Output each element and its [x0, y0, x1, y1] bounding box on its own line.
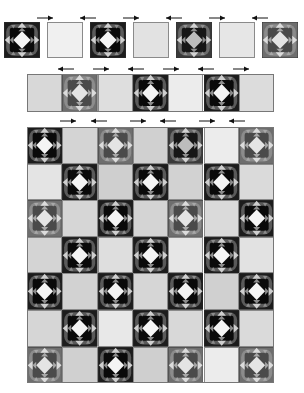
quilt-r4-c3-plain-square — [133, 273, 168, 310]
quilt-r2-c3-plain-square — [133, 200, 168, 237]
top-row-arrow-right-icon — [37, 15, 53, 21]
quilt-r3-c2-plain-square — [98, 237, 133, 274]
quilt-r1-c0-plain-square — [27, 164, 62, 201]
quilt-arrow-left-icon — [91, 118, 107, 124]
quilt-r3-c4-plain-square — [168, 237, 203, 274]
quilt-r4-c1-plain-square — [62, 273, 97, 310]
quilt-r5-c4-plain-square — [168, 310, 203, 347]
strip-4-plain-square — [168, 74, 203, 112]
quilt-r1-c6-plain-square — [239, 164, 274, 201]
quilt-arrow-right-icon — [60, 118, 76, 124]
quilt-r5-c6-plain-square — [239, 310, 274, 347]
quilt-r6-c1-plain-square — [62, 347, 97, 384]
strip-6-plain-square — [239, 74, 274, 112]
quilt-arrow-left-icon — [160, 118, 176, 124]
strip-arrow-left-icon — [58, 66, 74, 72]
quilt-arrow-right-icon — [130, 118, 146, 124]
quilt-r1-c5-pieced-block — [204, 164, 239, 201]
quilt-arrow-right-icon — [199, 118, 215, 124]
quilt-r0-c5-plain-square — [204, 127, 239, 164]
top-row-arrow-right-icon — [123, 15, 139, 21]
quilt-r3-c5-pieced-block — [204, 237, 239, 274]
top-row-arrow-left-icon — [166, 15, 182, 21]
top-row-6-pieced-block — [262, 22, 298, 58]
quilt-r2-c5-plain-square — [204, 200, 239, 237]
quilt-r1-c2-plain-square — [98, 164, 133, 201]
strip-5-pieced-block — [204, 74, 239, 112]
top-row-0-pieced-block — [4, 22, 40, 58]
quilt-arrow-left-icon — [229, 118, 245, 124]
quilt-r5-c5-pieced-block — [204, 310, 239, 347]
quilt-r2-c2-pieced-block — [98, 200, 133, 237]
strip-arrow-left-icon — [198, 66, 214, 72]
quilt-r0-c0-pieced-block — [27, 127, 62, 164]
quilt-r4-c5-plain-square — [204, 273, 239, 310]
quilt-r4-c6-pieced-block — [239, 273, 274, 310]
quilt-r2-c4-pieced-block — [168, 200, 203, 237]
quilt-r3-c1-pieced-block — [62, 237, 97, 274]
top-row-arrow-right-icon — [209, 15, 225, 21]
quilt-r0-c2-pieced-block — [98, 127, 133, 164]
top-row-4-pieced-block — [176, 22, 212, 58]
quilt-r6-c3-plain-square — [133, 347, 168, 384]
top-row-5-plain-square — [219, 22, 255, 58]
strip-arrow-left-icon — [128, 66, 144, 72]
quilt-r0-c3-plain-square — [133, 127, 168, 164]
quilt-r6-c5-plain-square — [204, 347, 239, 384]
top-row-arrow-left-icon — [252, 15, 268, 21]
quilt-r0-c4-pieced-block — [168, 127, 203, 164]
top-row-3-plain-square — [133, 22, 169, 58]
quilt-r5-c1-pieced-block — [62, 310, 97, 347]
quilt-r1-c4-plain-square — [168, 164, 203, 201]
quilt-r4-c4-pieced-block — [168, 273, 203, 310]
strip-3-pieced-block — [133, 74, 168, 112]
quilt-r5-c0-plain-square — [27, 310, 62, 347]
quilt-r6-c6-pieced-block — [239, 347, 274, 384]
strip-arrow-right-icon — [93, 66, 109, 72]
strip-0-plain-square — [27, 74, 62, 112]
quilt-r3-c3-pieced-block — [133, 237, 168, 274]
strip-arrow-right-icon — [163, 66, 179, 72]
quilt-r0-c1-plain-square — [62, 127, 97, 164]
strip-2-plain-square — [98, 74, 133, 112]
quilt-r0-c6-pieced-block — [239, 127, 274, 164]
quilt-r6-c0-pieced-block — [27, 347, 62, 384]
quilt-r2-c6-pieced-block — [239, 200, 274, 237]
quilt-r3-c6-plain-square — [239, 237, 274, 274]
strip-arrow-right-icon — [233, 66, 249, 72]
quilt-r4-c0-pieced-block — [27, 273, 62, 310]
quilt-r5-c2-plain-square — [98, 310, 133, 347]
quilt-r2-c1-plain-square — [62, 200, 97, 237]
quilt-r3-c0-plain-square — [27, 237, 62, 274]
quilt-r6-c2-pieced-block — [98, 347, 133, 384]
top-row-arrow-left-icon — [80, 15, 96, 21]
quilt-r1-c1-pieced-block — [62, 164, 97, 201]
strip-1-pieced-block — [62, 74, 97, 112]
quilt-r4-c2-pieced-block — [98, 273, 133, 310]
top-row-1-plain-square — [47, 22, 83, 58]
quilt-r5-c3-pieced-block — [133, 310, 168, 347]
quilt-r2-c0-pieced-block — [27, 200, 62, 237]
quilt-r6-c4-pieced-block — [168, 347, 203, 384]
quilt-r1-c3-pieced-block — [133, 164, 168, 201]
top-row-2-pieced-block — [90, 22, 126, 58]
